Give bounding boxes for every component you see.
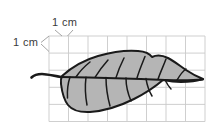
grid-cell-height-label: 1 cm	[13, 36, 38, 48]
leader-line-top-right	[68, 30, 74, 36]
leader-line-left-down	[41, 44, 49, 52]
leaf-graphic	[32, 51, 204, 112]
leaf-grid-figure: 1 cm 1 cm	[0, 0, 212, 127]
grid-cell-width-label: 1 cm	[52, 16, 77, 28]
leaf-petiole	[32, 74, 62, 78]
leaf-diagram-svg: 1 cm 1 cm	[0, 0, 212, 127]
leader-line-top	[55, 30, 62, 36]
leader-line-left	[41, 36, 49, 43]
